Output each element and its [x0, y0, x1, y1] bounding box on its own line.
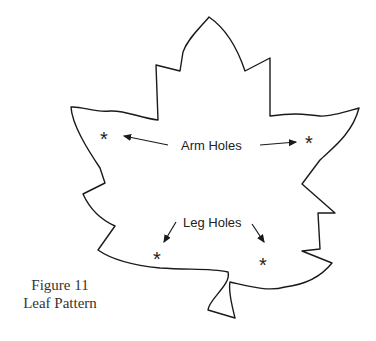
arm-holes-label: Arm Holes	[181, 138, 242, 153]
leg-holes-label: Leg Holes	[183, 215, 242, 230]
arm-arrow-left	[124, 136, 168, 145]
arm-hole-marker-left: *	[100, 128, 108, 150]
figure-caption: Figure 11 Leaf Pattern	[18, 276, 102, 312]
caption-figure-number: Figure 11	[18, 276, 102, 294]
leaf-outline	[71, 17, 359, 318]
leg-arrow-left	[164, 222, 176, 242]
arm-hole-marker-right: *	[305, 132, 313, 154]
leg-hole-marker-left: *	[153, 248, 161, 270]
arm-arrow-right	[260, 142, 296, 145]
leg-arrow-right	[252, 224, 264, 242]
leg-hole-marker-right: *	[259, 254, 267, 276]
caption-title: Leaf Pattern	[18, 294, 102, 312]
